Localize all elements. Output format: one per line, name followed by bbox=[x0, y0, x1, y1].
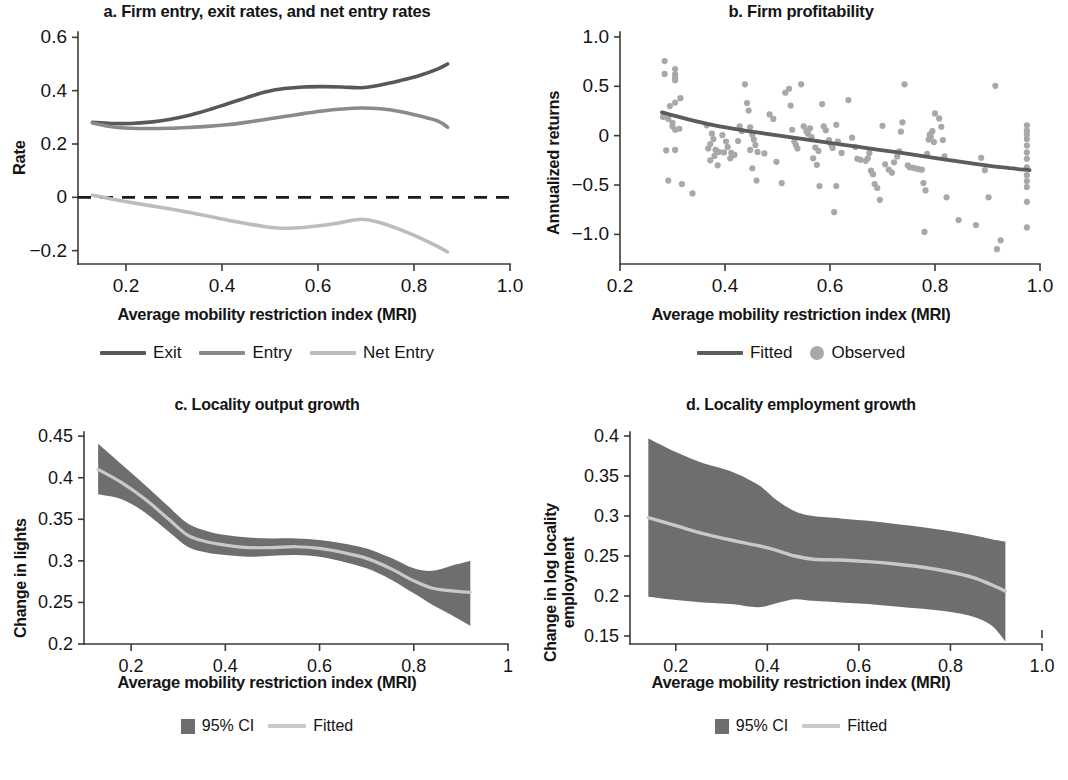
panel-a-legend-item-2[interactable]: Net Entry bbox=[310, 344, 434, 361]
svg-text:0.6: 0.6 bbox=[817, 275, 843, 296]
legend-line-icon bbox=[100, 351, 146, 355]
panel-a-firm-entry-exit: a. Firm entry, exit rates, and net entry… bbox=[0, 0, 534, 390]
svg-text:0.2: 0.2 bbox=[594, 586, 619, 606]
svg-text:0.4: 0.4 bbox=[209, 275, 236, 296]
svg-text:0.6: 0.6 bbox=[41, 26, 67, 47]
legend-line-icon bbox=[697, 351, 743, 355]
panel-c-legend-item-0[interactable]: 95% CI bbox=[181, 718, 254, 734]
legend-swatch-icon bbox=[181, 719, 195, 734]
svg-text:0.25: 0.25 bbox=[38, 592, 73, 612]
svg-text:0.3: 0.3 bbox=[48, 551, 73, 571]
legend-swatch-icon bbox=[715, 719, 729, 734]
svg-text:0.35: 0.35 bbox=[38, 509, 73, 529]
legend-label: Observed bbox=[831, 344, 905, 361]
legend-label: Entry bbox=[252, 344, 292, 361]
svg-text:0.3: 0.3 bbox=[594, 506, 619, 526]
panel-d-locality-employment-growth: d. Locality employment growth Change in … bbox=[534, 390, 1068, 780]
svg-text:0.25: 0.25 bbox=[584, 546, 619, 566]
panel-c-locality-output-growth: c. Locality output growth Change in ligh… bbox=[0, 390, 534, 780]
panel-d-legend-item-0[interactable]: 95% CI bbox=[715, 718, 788, 734]
legend-label: Fitted bbox=[750, 344, 793, 361]
svg-text:0.2: 0.2 bbox=[48, 634, 73, 654]
panel-d-legend: 95% CIFitted bbox=[534, 718, 1068, 734]
panel-c-legend: 95% CIFitted bbox=[0, 718, 534, 734]
legend-dot-icon bbox=[810, 346, 824, 360]
legend-line-icon bbox=[199, 351, 245, 355]
svg-text:0.8: 0.8 bbox=[401, 275, 427, 296]
legend-line-icon bbox=[310, 351, 356, 355]
panel-b-firm-profitability: b. Firm profitability Annualized returns… bbox=[534, 0, 1068, 390]
svg-text:1.0: 1.0 bbox=[583, 26, 609, 47]
svg-text:0.2: 0.2 bbox=[113, 275, 139, 296]
legend-line-icon bbox=[802, 724, 840, 728]
panel-a-legend: ExitEntryNet Entry bbox=[0, 344, 534, 361]
svg-text:0.15: 0.15 bbox=[584, 626, 619, 646]
svg-text:0.2: 0.2 bbox=[41, 133, 67, 154]
svg-text:0.8: 0.8 bbox=[401, 656, 426, 676]
panel-b-legend: FittedObserved bbox=[534, 344, 1068, 361]
legend-label: 95% CI bbox=[736, 718, 788, 734]
legend-label: 95% CI bbox=[202, 718, 254, 734]
svg-text:0: 0 bbox=[56, 186, 67, 207]
svg-text:−0.5: −0.5 bbox=[571, 174, 609, 195]
panel-d-legend-item-1[interactable]: Fitted bbox=[802, 718, 887, 734]
panel-b-legend-item-0[interactable]: Fitted bbox=[697, 344, 793, 361]
legend-label: Fitted bbox=[847, 718, 887, 734]
svg-text:1.0: 1.0 bbox=[497, 275, 523, 296]
panel-c-legend-item-1[interactable]: Fitted bbox=[268, 718, 353, 734]
svg-text:0.4: 0.4 bbox=[755, 656, 780, 676]
svg-text:1.0: 1.0 bbox=[1027, 275, 1053, 296]
svg-text:1: 1 bbox=[503, 656, 513, 676]
svg-text:0.6: 0.6 bbox=[307, 656, 332, 676]
svg-text:0.2: 0.2 bbox=[607, 275, 633, 296]
svg-text:1.0: 1.0 bbox=[1029, 656, 1054, 676]
svg-text:0.4: 0.4 bbox=[712, 275, 739, 296]
svg-text:0.2: 0.2 bbox=[663, 656, 688, 676]
svg-text:0.4: 0.4 bbox=[594, 426, 619, 446]
svg-text:0.8: 0.8 bbox=[938, 656, 963, 676]
panel-a-plot: −0.200.20.40.60.20.40.60.81.0 bbox=[0, 0, 534, 390]
svg-text:0.4: 0.4 bbox=[48, 468, 73, 488]
legend-label: Exit bbox=[153, 344, 181, 361]
svg-text:0.8: 0.8 bbox=[922, 275, 948, 296]
svg-text:−0.2: −0.2 bbox=[29, 240, 67, 261]
panel-a-legend-item-0[interactable]: Exit bbox=[100, 344, 181, 361]
svg-text:0.4: 0.4 bbox=[213, 656, 238, 676]
panel-b-plot: −1.0−0.500.51.00.20.40.60.81.0 bbox=[534, 0, 1068, 390]
svg-text:0.4: 0.4 bbox=[41, 80, 68, 101]
svg-text:0.5: 0.5 bbox=[583, 75, 609, 96]
legend-label: Fitted bbox=[313, 718, 353, 734]
panel-b-legend-item-1[interactable]: Observed bbox=[810, 344, 905, 361]
legend-line-icon bbox=[268, 724, 306, 728]
svg-text:0.45: 0.45 bbox=[38, 426, 73, 446]
svg-text:−1.0: −1.0 bbox=[571, 223, 609, 244]
panel-a-legend-item-1[interactable]: Entry bbox=[199, 344, 292, 361]
svg-text:0: 0 bbox=[598, 125, 609, 146]
figure-panel-grid: a. Firm entry, exit rates, and net entry… bbox=[0, 0, 1068, 780]
svg-text:0.6: 0.6 bbox=[846, 656, 871, 676]
svg-text:0.35: 0.35 bbox=[584, 466, 619, 486]
legend-label: Net Entry bbox=[363, 344, 434, 361]
svg-text:0.6: 0.6 bbox=[305, 275, 331, 296]
svg-text:0.2: 0.2 bbox=[119, 656, 144, 676]
